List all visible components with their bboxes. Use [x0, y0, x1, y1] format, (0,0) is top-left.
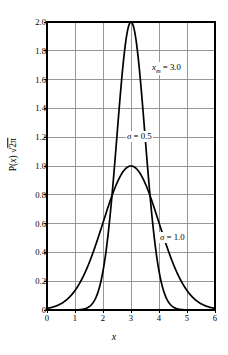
- annotation-sigma-10: σ = 1.0: [159, 232, 186, 243]
- annotation-xm: xm = 3.0: [151, 62, 182, 75]
- annotation-xm-tail: = 3.0: [161, 62, 181, 72]
- annotation-sigma-05-tail: = 0.5: [131, 131, 151, 141]
- plot-frame: [44, 22, 215, 313]
- annotation-sigma-10-tail: = 1.0: [164, 232, 184, 242]
- gaussian-distribution-figure: P(x) √2π x 2.0 1.8 1.6 1.4 1.2 1.0 0.8 0…: [0, 0, 228, 355]
- plot-area: [0, 0, 228, 355]
- annotation-sigma-05: σ = 0.5: [126, 131, 153, 142]
